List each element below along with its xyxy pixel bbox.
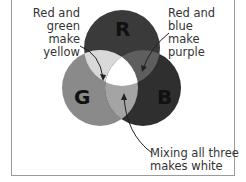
label-yellow-line3: yellow <box>20 46 80 59</box>
label-white: Mixing all three makes white <box>150 147 240 173</box>
label-purple: Red and blue make purple <box>168 7 240 59</box>
letter-r: R <box>115 17 130 41</box>
label-white-line2: makes white <box>150 160 240 173</box>
label-yellow: Red and green make yellow <box>20 7 80 59</box>
label-purple-line2: make purple <box>168 33 240 59</box>
label-yellow-line2: green make <box>20 20 80 46</box>
letter-b: B <box>157 85 172 109</box>
letter-g: G <box>74 85 90 109</box>
label-purple-line1: Red and blue <box>168 7 240 33</box>
